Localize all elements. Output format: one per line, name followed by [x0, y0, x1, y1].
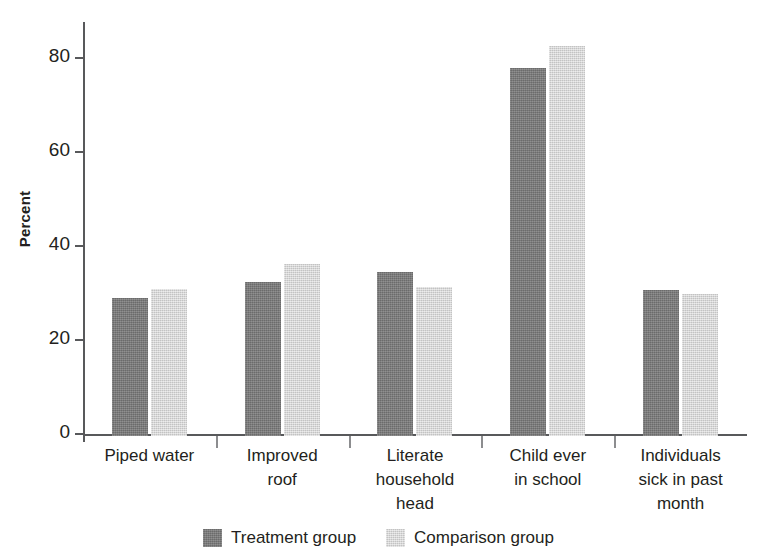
x-axis-category-label: Literatehouseholdhead — [349, 444, 482, 516]
x-axis-category-label-line: Piped water — [83, 444, 216, 468]
legend-label: Comparison group — [414, 528, 554, 548]
bar-treatment — [112, 298, 148, 436]
y-axis-tick-label: 20 — [0, 327, 70, 349]
x-axis-category-label-line: Improved — [216, 444, 349, 468]
y-axis-tick-label: 0 — [0, 421, 70, 443]
bar-treatment — [643, 290, 679, 436]
x-axis-category-label-line: Literate — [349, 444, 482, 468]
legend-item: Comparison group — [386, 528, 554, 548]
bar-comparison — [549, 46, 585, 436]
bar-group — [349, 22, 482, 436]
x-axis-category-label-line: household — [349, 468, 482, 492]
x-axis-category-label: Individualssick in pastmonth — [614, 444, 747, 516]
x-axis-category-label: Piped water — [83, 444, 216, 468]
x-axis-category-label-line: in school — [481, 468, 614, 492]
x-axis-category-label: Child everin school — [481, 444, 614, 492]
legend-swatch-icon — [203, 529, 222, 547]
x-axis-category-label: Improvedroof — [216, 444, 349, 492]
bar-group — [216, 22, 349, 436]
x-axis-category-label-line: sick in past — [614, 468, 747, 492]
y-axis-title: Percent — [12, 4, 38, 434]
x-axis-category-label-line: Individuals — [614, 444, 747, 468]
bar-comparison — [416, 287, 452, 436]
bar-comparison — [284, 264, 320, 436]
bar-group — [614, 22, 747, 436]
x-axis-category-label-line: head — [349, 492, 482, 516]
x-axis-category-label-line: roof — [216, 468, 349, 492]
x-axis-category-label-line: Child ever — [481, 444, 614, 468]
bar-chart: Percent 020406080 Piped waterImprovedroo… — [0, 0, 757, 558]
y-axis-tick-label: 60 — [0, 139, 70, 161]
bar-treatment — [377, 272, 413, 436]
legend-item: Treatment group — [203, 528, 356, 548]
bar-comparison — [682, 294, 718, 436]
plot-area — [83, 22, 747, 436]
legend-swatch-icon — [386, 529, 405, 547]
y-axis-tick-label: 80 — [0, 45, 70, 67]
bar-group — [83, 22, 216, 436]
x-axis-category-label-line: month — [614, 492, 747, 516]
bar-treatment — [510, 68, 546, 436]
y-axis-tick-label: 40 — [0, 233, 70, 255]
chart-legend: Treatment groupComparison group — [0, 528, 757, 548]
bar-comparison — [151, 289, 187, 436]
bar-group — [481, 22, 614, 436]
bar-treatment — [245, 282, 281, 436]
legend-label: Treatment group — [231, 528, 356, 548]
